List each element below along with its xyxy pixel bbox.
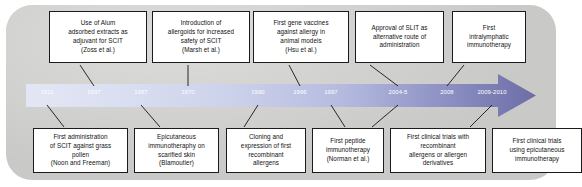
event-line: allergoids for increased xyxy=(168,28,234,37)
event-box-allergoids: Introduction of allergoids for increased… xyxy=(152,11,250,63)
event-line: Introduction of xyxy=(168,19,234,28)
event-line: recombinant xyxy=(241,151,291,160)
event-box-epicutaneous-scarified: Epicutaneous immunotheraphy on scarified… xyxy=(134,128,219,173)
year-label-2008: 2008 xyxy=(430,89,464,95)
event-line: Epicutaneous xyxy=(148,133,205,142)
event-line: against allergy in xyxy=(273,28,328,37)
event-line: scarified skin xyxy=(148,151,205,160)
year-label-1937: 1937 xyxy=(77,89,111,95)
year-label-2004-5: 2004-5 xyxy=(377,89,419,95)
event-line: pollen xyxy=(50,151,111,160)
event-line: First clinical trials with xyxy=(407,133,469,142)
event-line: immunotherapy xyxy=(467,41,511,50)
year-label-2009-2010: 2009-2010 xyxy=(464,89,520,95)
event-line: (Hsu et al.) xyxy=(273,46,328,55)
event-line: First xyxy=(467,24,511,33)
event-line: derivatives xyxy=(407,159,469,168)
event-box-first-scit-grass-pollen: First administration of SCIT against gra… xyxy=(33,128,128,173)
event-box-gene-vaccines: First gene vaccines against allergy in a… xyxy=(253,11,349,63)
event-line: immunotheraphy on xyxy=(148,142,205,151)
event-box-trials-epicutaneous: First clinical trials using epicutaneous… xyxy=(492,128,582,173)
event-line: safety of SCIT xyxy=(168,37,234,46)
event-box-intralymphatic: First intralymphatic immunotherapy xyxy=(452,11,526,63)
event-line: immunotherapy xyxy=(326,146,370,155)
event-line: animal models xyxy=(273,37,328,46)
event-box-cloning-recombinant: Cloning and expression of first recombin… xyxy=(226,128,306,173)
event-line: adsorbed extracts as xyxy=(68,28,127,37)
event-line: First administration xyxy=(50,133,111,142)
event-box-trials-recombinant: First clinical trials with recombinant a… xyxy=(390,128,486,173)
event-line: allergens xyxy=(241,159,291,168)
timeline-arrow xyxy=(26,74,536,117)
event-box-alum-adsorbed-extracts: Use of Alum adsorbed extracts as adjuvan… xyxy=(49,11,147,63)
event-line: (Blamoutier) xyxy=(148,159,205,168)
year-label-1957: 1957 xyxy=(124,89,158,95)
event-line: allergens or allergen xyxy=(407,151,469,160)
event-line: Use of Alum xyxy=(68,19,127,28)
event-line: Cloning and xyxy=(241,133,291,142)
event-line: (Noon and Freeman) xyxy=(50,159,111,168)
event-line: immunotherapy xyxy=(509,155,564,164)
event-line: First gene vaccines xyxy=(273,19,328,28)
event-line: First peptide xyxy=(326,137,370,146)
event-line: (Marsh et al.) xyxy=(168,46,234,55)
year-label-1990: 1990 xyxy=(241,89,275,95)
year-label-1911: 1911 xyxy=(30,89,64,95)
event-box-peptide-immunotherapy: First peptide immunotherapy (Norman et a… xyxy=(312,128,384,173)
connector-lines-below xyxy=(47,105,492,127)
event-line: (Norman et al.) xyxy=(326,155,370,164)
year-label-1970: 1970 xyxy=(171,89,205,95)
event-line: (Zoss et al.) xyxy=(68,46,127,55)
event-box-slit-approval: Approval of SLIT as alternative route of… xyxy=(355,11,444,63)
event-line: recombinant xyxy=(407,142,469,151)
connector-lines-above xyxy=(80,65,464,86)
event-line: expression of first xyxy=(241,142,291,151)
event-line: adjuvant for SCIT xyxy=(68,37,127,46)
year-label-1997: 1997 xyxy=(314,89,348,95)
event-line: using epicutaneous xyxy=(509,146,564,155)
event-line: administration xyxy=(371,41,427,50)
year-label-1996: 1996 xyxy=(283,89,317,95)
event-line: intralymphatic xyxy=(467,33,511,42)
event-line: of SCIT against grass xyxy=(50,142,111,151)
event-line: alternative route of xyxy=(371,33,427,42)
event-line: First clinical trials xyxy=(509,137,564,146)
event-line: Approval of SLIT as xyxy=(371,24,427,33)
